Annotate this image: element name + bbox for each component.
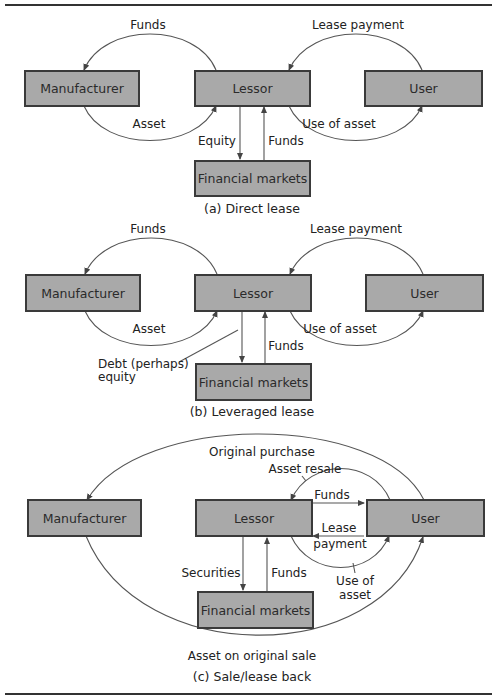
leader-c-resale: [302, 476, 306, 481]
c-lessor-node: Lessor: [195, 499, 313, 537]
b-label-debt-line2: equity: [98, 370, 136, 384]
a-manufacturer-node: Manufacturer: [24, 70, 140, 107]
leader-c-use: [353, 563, 355, 573]
c-label-original-purchase: Original purchase: [209, 445, 315, 459]
b-manufacturer-node: Manufacturer: [25, 274, 141, 312]
arrow-b-funds-to-manufacturer: [85, 238, 217, 274]
a-user-node: User: [364, 70, 483, 107]
c-label-asset: asset: [339, 588, 371, 602]
c-label-payment: payment: [313, 537, 366, 551]
c-label-funds-right: Funds: [314, 488, 349, 502]
c-label-funds-up: Funds: [271, 566, 306, 580]
b-label-funds-top: Funds: [130, 222, 165, 236]
b-label-funds-up: Funds: [268, 339, 303, 353]
c-label-lease: Lease: [322, 521, 357, 535]
arrow-c-original-purchase: [87, 434, 424, 500]
arrow-b-lease-payment: [290, 238, 423, 274]
c-label-asset-resale: Asset resale: [269, 462, 342, 476]
c-label-securities: Securities: [181, 566, 240, 580]
c-financial-markets-node: Financial markets: [197, 591, 314, 629]
b-label-use-of-asset: Use of asset: [303, 322, 377, 336]
a-label-equity: Equity: [198, 134, 236, 148]
a-financial-markets-node: Financial markets: [194, 160, 311, 197]
a-label-funds-up: Funds: [268, 134, 303, 148]
b-lessor-node: Lessor: [194, 274, 312, 312]
a-label-lease-payment: Lease payment: [312, 18, 404, 32]
c-manufacturer-node: Manufacturer: [27, 499, 142, 537]
c-caption: (c) Sale/lease back: [193, 670, 311, 684]
c-label-asset-on-original-sale: Asset on original sale: [188, 649, 316, 663]
b-label-asset: Asset: [133, 322, 166, 336]
a-label-funds-top: Funds: [130, 18, 165, 32]
a-caption: (a) Direct lease: [204, 202, 300, 216]
arrow-a-lease-payment: [289, 34, 422, 70]
a-label-asset: Asset: [133, 117, 166, 131]
a-label-use-of-asset: Use of asset: [302, 117, 376, 131]
b-user-node: User: [365, 274, 484, 312]
arrow-a-funds-to-manufacturer: [84, 34, 216, 70]
b-caption: (b) Leveraged lease: [190, 405, 315, 419]
b-financial-markets-node: Financial markets: [195, 363, 312, 401]
b-label-debt-line1: Debt (perhaps): [98, 357, 189, 371]
c-label-use-of: Use of: [336, 574, 374, 588]
a-lessor-node: Lessor: [194, 70, 311, 107]
c-user-node: User: [366, 499, 485, 537]
b-label-lease-payment: Lease payment: [310, 222, 402, 236]
